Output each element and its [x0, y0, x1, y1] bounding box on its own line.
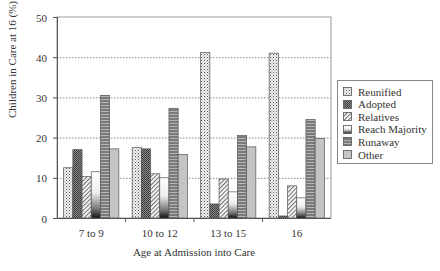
legend-label: Runaway	[358, 136, 400, 148]
legend: ReunifiedAdoptedRelativesReach MajorityR…	[337, 80, 433, 164]
bar-reach-majority	[228, 192, 237, 218]
legend-label: Adopted	[358, 98, 396, 110]
y-tick-label: 40	[36, 52, 48, 64]
bar-other	[178, 154, 187, 218]
bar-other	[315, 138, 324, 218]
bar-relatives	[219, 179, 228, 218]
legend-item: Adopted	[343, 98, 396, 111]
legend-swatch-icon	[343, 112, 352, 121]
legend-item: Reunified	[343, 85, 401, 98]
bar-relatives	[288, 186, 297, 218]
x-axis-label: Age at Admission into Care	[0, 246, 388, 258]
y-tick-label: 20	[36, 132, 48, 144]
bar-other	[247, 147, 256, 218]
legend-item: Relatives	[343, 110, 399, 123]
bar-other	[110, 149, 119, 218]
bar-reunified	[201, 52, 210, 218]
bar-reunified	[269, 53, 278, 218]
bar-reach-majority	[91, 172, 100, 218]
legend-item: Runaway	[343, 135, 400, 148]
bar-adopted	[73, 150, 82, 218]
bar-runaway	[100, 95, 109, 218]
y-tick-label: 0	[42, 213, 48, 225]
y-tick-label: 50	[36, 12, 48, 24]
legend-label: Reunified	[358, 86, 401, 98]
x-tick-label: 7 to 9	[79, 227, 105, 239]
bar-adopted	[210, 204, 219, 218]
bar-reunified	[64, 168, 73, 218]
bar-adopted	[278, 216, 287, 218]
bar-reach-majority	[160, 178, 169, 218]
bar-relatives	[82, 177, 91, 218]
y-tick-label: 10	[36, 172, 48, 184]
legend-swatch-icon	[343, 125, 352, 134]
y-tick-label: 30	[36, 92, 48, 104]
bar-reunified	[132, 148, 141, 218]
legend-label: Other	[358, 149, 383, 161]
legend-label: Relatives	[358, 111, 399, 123]
bar-runaway	[306, 120, 315, 218]
legend-label: Reach Majority	[358, 123, 427, 135]
legend-item: Reach Majority	[343, 123, 427, 136]
bar-runaway	[169, 108, 178, 218]
bar-runaway	[237, 136, 246, 218]
bar-reach-majority	[297, 198, 306, 218]
x-tick-label: 16	[291, 227, 303, 239]
bar-relatives	[151, 174, 160, 218]
bars	[64, 52, 325, 218]
legend-swatch-icon	[343, 100, 352, 109]
y-axis-label: Children in Care at 16 (%)	[6, 1, 18, 118]
x-tick-label: 13 to 15	[210, 227, 247, 239]
legend-swatch-icon	[343, 150, 352, 159]
legend-swatch-icon	[343, 87, 352, 96]
legend-item: Other	[343, 148, 383, 161]
x-tick-label: 10 to 12	[142, 227, 178, 239]
legend-swatch-icon	[343, 137, 352, 146]
bar-adopted	[141, 149, 150, 218]
